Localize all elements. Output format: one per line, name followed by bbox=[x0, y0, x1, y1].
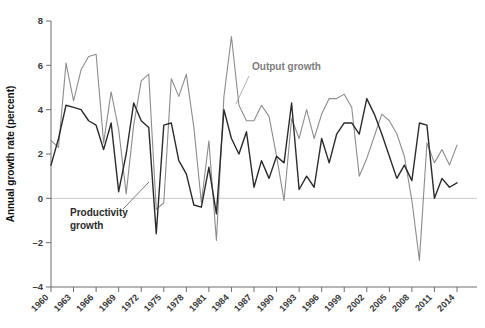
growth-rate-line-chart: 86420–2–4 196019631966196919721975197819… bbox=[0, 0, 485, 328]
y-axis-title: Annual growth rate (percent) bbox=[5, 86, 16, 223]
y-tick-label: –4 bbox=[32, 281, 43, 292]
y-tick-label: 6 bbox=[38, 60, 43, 71]
y-tick-label: 2 bbox=[38, 148, 43, 159]
y-tick-label: 4 bbox=[38, 104, 44, 115]
chart-container: 86420–2–4 196019631966196919721975197819… bbox=[0, 0, 485, 328]
y-tick-label: –2 bbox=[32, 237, 43, 248]
y-tick-label: 0 bbox=[38, 193, 43, 204]
chart-background bbox=[0, 0, 485, 328]
annotation-output-growth: Output growth bbox=[252, 61, 321, 72]
y-tick-label: 8 bbox=[38, 15, 43, 26]
